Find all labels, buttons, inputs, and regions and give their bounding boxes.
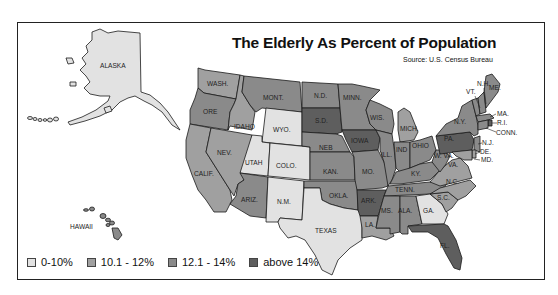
label-pa: PA.: [444, 135, 454, 142]
legend-swatch: [27, 258, 36, 267]
label-la: LA.: [365, 221, 375, 228]
label-ala: ALA.: [398, 207, 412, 214]
label-sc: S.C.: [437, 194, 450, 201]
label-colo: COLO.: [276, 162, 297, 169]
label-hawaii: HAWAII: [70, 223, 93, 230]
label-kan: KAN.: [323, 168, 339, 175]
label-utah: UTAH: [245, 159, 263, 166]
label-iowa: IOWA: [351, 137, 369, 144]
label-ri: R.I.: [497, 119, 507, 126]
state-florida: [408, 224, 462, 270]
legend-item-10-12: 10.1 - 12%: [87, 256, 154, 268]
label-calif: CALIF.: [194, 170, 214, 177]
label-ore: ORE: [203, 108, 218, 115]
label-ill: ILL.: [381, 151, 392, 158]
legend-label: above 14%: [263, 256, 318, 268]
label-tenn: TENN.: [395, 186, 415, 193]
legend-label: 12.1 - 14%: [182, 256, 235, 268]
label-okla: OKLA.: [329, 192, 349, 199]
alaska-island: [66, 58, 74, 64]
legend-item-0-10: 0-10%: [27, 256, 73, 268]
label-mont: MONT.: [263, 94, 284, 101]
label-nm: N.M.: [277, 198, 291, 205]
label-minn: MINN.: [343, 94, 362, 101]
label-ky: KY.: [411, 170, 421, 177]
label-texas: TEXAS: [315, 227, 337, 234]
label-wash: WASH.: [207, 80, 229, 87]
label-ms: MS.: [381, 207, 393, 214]
label-mich: MICH.: [400, 125, 419, 132]
label-wis: WIS.: [370, 114, 384, 121]
label-nc: N.C.: [446, 178, 459, 185]
label-alaska: ALASKA: [100, 62, 126, 69]
legend: 0-10% 10.1 - 12% 12.1 - 14% above 14%: [27, 256, 332, 268]
alaska-island: [70, 82, 76, 86]
legend-label: 10.1 - 12%: [101, 256, 154, 268]
state-maryland: [452, 150, 472, 160]
label-wva: W. VA.: [434, 152, 454, 159]
legend-item-12-14: 12.1 - 14%: [168, 256, 235, 268]
label-nd: N.D.: [314, 92, 327, 99]
label-nev: NEV.: [217, 149, 232, 156]
label-sd: S.D.: [315, 117, 328, 124]
aleutian-islands: [28, 117, 59, 123]
state-kansas: [310, 152, 355, 180]
label-ny: N.Y.: [454, 118, 466, 125]
label-ark: ARK.: [361, 197, 377, 204]
label-me: ME.: [489, 84, 501, 91]
label-wyo: WYO.: [273, 126, 291, 133]
label-fl: FL.: [440, 242, 450, 249]
label-md: MD.: [481, 156, 493, 163]
legend-label: 0-10%: [41, 256, 73, 268]
state-alaska: [68, 29, 180, 130]
label-mo: MO.: [362, 168, 375, 175]
legend-item-above-14: above 14%: [249, 256, 318, 268]
label-vt: VT.: [466, 88, 476, 95]
label-va: VA.: [448, 161, 458, 168]
legend-swatch: [87, 258, 96, 267]
label-neb: NEB: [319, 144, 333, 151]
label-ma: MA.: [497, 110, 509, 117]
source-note: Source: U.S. Census Bureau: [403, 56, 493, 63]
label-nj: N.J.: [482, 139, 494, 146]
label-conn: CONN.: [496, 129, 517, 136]
label-ariz: ARIZ.: [241, 196, 258, 203]
map-title: The Elderly As Percent of Population: [232, 34, 496, 52]
legend-swatch: [249, 258, 258, 267]
label-ind: IND: [396, 146, 408, 153]
state-rhode-island: [488, 120, 492, 126]
label-ohio: OHIO: [412, 142, 429, 149]
label-idaho: IDAHO: [234, 123, 255, 130]
legend-swatch: [168, 258, 177, 267]
label-ga: GA.: [423, 207, 435, 214]
label-de: DE.: [480, 148, 491, 155]
